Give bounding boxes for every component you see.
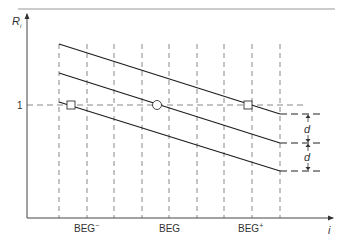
y-axis-label-main: R (12, 15, 20, 27)
x-tick-label-beg-minus-text: BEG (74, 223, 95, 234)
dimension-label-upper: d (304, 123, 311, 135)
dimension-label-lower: d (304, 151, 311, 163)
x-tick-label-beg: BEG (159, 223, 180, 234)
vertical-grid-lines (59, 44, 280, 218)
beg-minus-marker (67, 101, 75, 109)
x-tick-label-beg-text: BEG (159, 223, 180, 234)
x-tick-label-beg-minus: BEG− (74, 222, 99, 234)
diagram: d d Ri 1 BEG− BEG BEG+ i (0, 0, 349, 248)
beg-plus-marker (244, 101, 252, 109)
y-axis-label-subscript: i (20, 23, 22, 29)
beg-marker (153, 101, 162, 110)
x-tick-label-beg-minus-sup: − (95, 222, 99, 229)
x-axis-label: i (328, 224, 331, 236)
lower-line (59, 102, 280, 171)
dimension-upper: d (304, 115, 311, 143)
dimension-lower: d (304, 144, 311, 171)
x-tick-label-beg-plus: BEG+ (238, 222, 263, 234)
x-tick-label-beg-plus-sup: + (259, 222, 263, 229)
y-tick-label-one: 1 (17, 100, 23, 111)
x-tick-label-beg-plus-text: BEG (238, 223, 259, 234)
y-axis-label: Ri (12, 15, 22, 29)
